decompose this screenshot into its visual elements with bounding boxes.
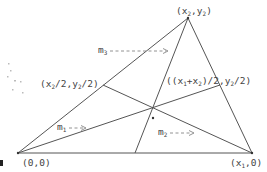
vertex-origin-dot [17, 152, 19, 154]
median-m3-label: m3 [98, 44, 108, 56]
apex-label: (x2,y2) [176, 5, 212, 17]
m2-arrowhead-icon [189, 131, 194, 136]
median-m1-label: m1 [57, 121, 67, 133]
scan-noise [0, 63, 24, 166]
triangle-medians-diagram: (x2,y2) m3 (x2/2,y2/2) ((x1+x2)/2,y2/2) … [0, 0, 267, 172]
centroid-dot [152, 117, 154, 119]
origin-label: (0,0) [22, 157, 51, 168]
left-midpoint-label: (x2/2,y2/2) [40, 78, 99, 90]
vertex-apex-dot [187, 17, 189, 19]
x1-vertex-label: (x1,0) [230, 157, 262, 169]
median-from-origin [18, 85, 220, 153]
median-from-x1 [103, 85, 252, 153]
vertex-x1-dot [251, 152, 253, 154]
right-midpoint-label: ((x1+x2)/2,y2/2) [166, 75, 251, 87]
median-m2-label: m2 [158, 126, 168, 138]
